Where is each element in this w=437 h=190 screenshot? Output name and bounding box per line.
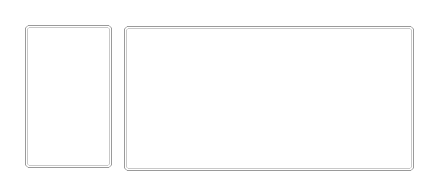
right-panel-frame [124,26,414,171]
left-panel-frame [25,25,112,168]
right-panel-border [124,26,414,171]
left-panel-border [25,25,112,168]
